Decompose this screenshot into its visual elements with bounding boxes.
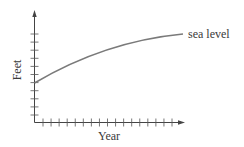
x-axis-title: Year	[98, 129, 120, 143]
y-axis-arrow-icon	[32, 10, 36, 17]
sea-level-chart: sea level Year Feet	[0, 0, 244, 147]
x-axis-arrow-icon	[178, 120, 185, 124]
y-axis	[31, 10, 39, 123]
x-axis	[35, 119, 186, 127]
sea-level-curve	[35, 34, 184, 83]
y-axis-title: Feet	[10, 59, 24, 80]
series-label-sea-level: sea level	[188, 27, 230, 41]
